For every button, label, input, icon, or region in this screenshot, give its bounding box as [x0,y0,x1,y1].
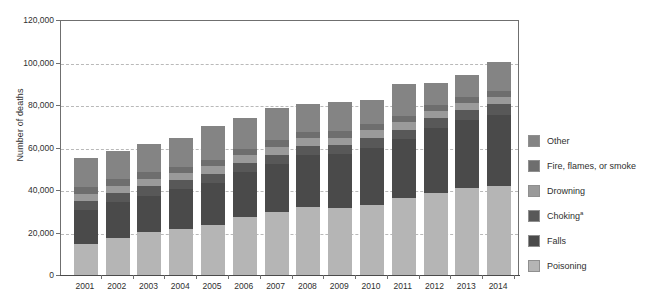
segment-drowning [265,147,289,154]
segment-falls [455,120,479,188]
segment-choking [296,146,320,155]
segment-poisoning [455,188,479,275]
bar-2002[interactable] [106,151,130,275]
legend-swatch-icon [528,160,540,172]
bar-2009[interactable] [328,102,352,275]
segment-choking [265,155,289,164]
legend-swatch-icon [528,185,540,197]
segment-drowning [296,138,320,145]
segment-fire-flames-or-smoke [265,140,289,147]
x-tick-mark [101,275,102,279]
segment-poisoning [424,193,448,275]
bar-2004[interactable] [169,138,193,275]
segment-other [424,83,448,105]
legend-swatch-icon [528,260,540,272]
segment-drowning [74,194,98,201]
x-tick-mark [323,275,324,279]
segment-choking [74,201,98,210]
segment-drowning [137,179,161,186]
legend-label: Drowning [547,186,585,196]
segment-other [455,75,479,97]
bar-series-container [61,21,518,275]
segment-falls [424,128,448,192]
segment-choking [106,193,130,202]
legend-item-other[interactable]: Other [528,128,649,153]
legend-label: Poisoning [547,261,587,271]
segment-other [201,126,225,159]
segment-drowning [106,186,130,193]
x-tick-mark [514,275,515,279]
segment-other [106,151,130,179]
y-tick-label: 20,000 [0,228,54,238]
legend-item-poisoning[interactable]: Poisoning [528,253,649,278]
x-tick-mark [196,275,197,279]
bar-2001[interactable] [74,158,98,275]
segment-falls [201,183,225,225]
legend-item-falls[interactable]: Falls [528,228,649,253]
bar-2007[interactable] [265,108,289,275]
segment-poisoning [233,217,257,275]
legend-item-drowning[interactable]: Drowning [528,178,649,203]
legend-footnote-marker: a [580,210,583,216]
segment-falls [106,202,130,237]
segment-drowning [455,103,479,110]
segment-poisoning [106,238,130,275]
segment-poisoning [360,205,384,275]
segment-other [233,118,257,149]
legend-item-fire-flames-or-smoke[interactable]: Fire, flames, or smoke [528,153,649,178]
segment-poisoning [487,186,511,275]
x-tick-mark [355,275,356,279]
segment-poisoning [137,232,161,275]
legend-swatch-icon [528,235,540,247]
y-tick-label: 40,000 [0,185,54,195]
segment-falls [360,148,384,205]
y-axis-title: Number of deaths [15,65,25,185]
segment-poisoning [328,208,352,275]
segment-poisoning [74,244,98,275]
segment-falls [137,196,161,233]
segment-poisoning [392,198,416,275]
x-tick-mark [292,275,293,279]
bar-2010[interactable] [360,100,384,275]
x-tick-label-2014: 2014 [478,281,518,291]
segment-drowning [360,130,384,138]
bar-2014[interactable] [487,62,511,275]
segment-other [328,102,352,131]
y-tick-label: 120,000 [0,15,54,25]
bar-2003[interactable] [137,144,161,275]
legend-item-choking[interactable]: Chokinga [528,203,649,228]
segment-fire-flames-or-smoke [137,172,161,179]
segment-poisoning [265,212,289,275]
legend-label: Fire, flames, or smoke [547,161,636,171]
segment-other [169,138,193,167]
bar-2008[interactable] [296,104,320,275]
bar-2006[interactable] [233,118,257,275]
segment-choking [137,186,161,195]
segment-falls [392,139,416,197]
segment-choking [455,110,479,120]
segment-choking [360,138,384,148]
x-tick-mark [450,275,451,279]
segment-poisoning [201,225,225,275]
x-tick-mark [133,275,134,279]
y-tick-label: 60,000 [0,143,54,153]
bar-2005[interactable] [201,126,225,275]
bar-2013[interactable] [455,75,479,275]
bar-2012[interactable] [424,83,448,275]
x-tick-mark [387,275,388,279]
segment-falls [74,210,98,244]
segment-drowning [233,155,257,163]
segment-fire-flames-or-smoke [169,167,193,174]
x-tick-mark [260,275,261,279]
chart-legend: OtherFire, flames, or smokeDrowningChoki… [528,128,649,278]
bar-2011[interactable] [392,84,416,275]
segment-drowning [487,97,511,104]
legend-label: Other [547,136,570,146]
y-tick-label: 100,000 [0,58,54,68]
segment-falls [328,154,352,207]
segment-drowning [201,166,225,173]
segment-fire-flames-or-smoke [74,187,98,194]
legend-label: Chokinga [547,210,583,221]
segment-falls [296,155,320,208]
segment-other [137,144,161,172]
